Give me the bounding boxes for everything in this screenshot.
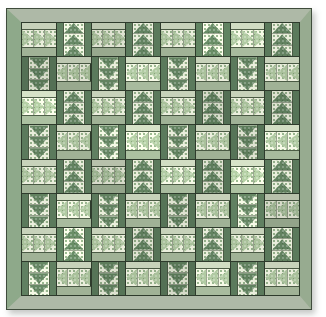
block-bottom-strip	[57, 81, 91, 90]
quilt-block-dark-down	[231, 262, 265, 295]
quilt-block-light-right	[22, 160, 56, 193]
quilt-block-light-left	[57, 125, 91, 158]
goose-triangle-left	[67, 64, 79, 81]
goose-triangle-down	[99, 194, 119, 204]
flying-geese-strip	[161, 235, 195, 252]
block-right-strip	[188, 57, 195, 90]
block-bottom-strip	[265, 218, 299, 227]
goose-triangle-right	[44, 30, 56, 47]
flying-geese-strip	[265, 64, 299, 81]
goose-triangle-right	[102, 30, 114, 47]
block-left-strip	[196, 91, 203, 124]
block-top-strip	[57, 262, 91, 269]
block-top-strip	[265, 125, 299, 132]
goose-triangle-left	[196, 269, 207, 286]
block-right-strip	[257, 57, 264, 90]
block-top-strip	[161, 160, 195, 167]
quilt-block-dark-up	[126, 160, 160, 193]
quilt-block-light-left	[196, 194, 230, 227]
goose-triangle-up	[272, 33, 292, 44]
block-right-strip	[223, 23, 230, 56]
goose-triangle-right	[253, 167, 265, 184]
block-bottom-strip	[92, 47, 126, 56]
goose-triangle-up	[64, 33, 84, 44]
goose-triangle-down	[238, 284, 258, 295]
goose-triangle-up	[133, 160, 153, 170]
goose-triangle-down	[99, 136, 119, 147]
goose-triangle-up	[272, 160, 292, 170]
quilt-block-dark-down	[161, 194, 195, 227]
flying-geese-strip	[22, 98, 56, 115]
block-top-strip	[57, 125, 91, 132]
block-bottom-strip	[126, 81, 160, 90]
goose-triangle-right	[102, 235, 114, 252]
goose-triangle-left	[276, 201, 288, 218]
block-right-strip	[49, 57, 56, 90]
goose-triangle-right	[33, 30, 45, 47]
goose-triangle-up	[203, 238, 223, 249]
flying-geese-strip	[196, 132, 230, 149]
quilt-block-light-right	[22, 228, 56, 261]
block-left-strip	[22, 194, 29, 227]
goose-triangle-up	[64, 91, 84, 101]
quilt-block-dark-up	[265, 160, 299, 193]
goose-triangle-up	[133, 181, 153, 192]
quilt-block-dark-up	[265, 23, 299, 56]
goose-triangle-up	[203, 33, 223, 44]
block-top-strip	[57, 194, 91, 201]
quilt-block-light-right	[231, 91, 265, 124]
block-left-strip	[92, 125, 99, 158]
goose-triangle-left	[126, 132, 137, 149]
block-right-strip	[153, 91, 160, 124]
quilt-block-dark-up	[57, 160, 91, 193]
block-right-strip	[188, 262, 195, 295]
goose-triangle-down	[29, 215, 49, 226]
goose-triangle-right	[33, 98, 45, 115]
goose-triangle-down	[168, 262, 188, 272]
block-bottom-strip	[265, 81, 299, 90]
goose-triangle-left	[137, 64, 149, 81]
goose-triangle-right	[253, 30, 265, 47]
block-right-strip	[49, 262, 56, 295]
block-top-strip	[22, 160, 56, 167]
goose-triangle-up	[133, 250, 153, 261]
block-bottom-strip	[265, 286, 299, 295]
flying-geese-strip	[272, 91, 292, 124]
goose-triangle-down	[168, 284, 188, 295]
flying-geese-strip	[64, 228, 84, 261]
block-right-strip	[292, 228, 299, 261]
block-bottom-strip	[161, 184, 195, 193]
goose-triangle-left	[67, 132, 79, 149]
goose-triangle-down	[29, 68, 49, 79]
goose-triangle-left	[148, 64, 160, 81]
block-left-strip	[231, 262, 238, 295]
goose-triangle-left	[137, 132, 149, 149]
goose-triangle-down	[238, 79, 258, 90]
goose-triangle-left	[79, 201, 91, 218]
block-right-strip	[153, 228, 160, 261]
goose-triangle-left	[287, 269, 299, 286]
goose-triangle-left	[137, 269, 149, 286]
quilt-block-light-right	[92, 23, 126, 56]
block-left-strip	[22, 125, 29, 158]
goose-triangle-down	[99, 57, 119, 67]
block-left-strip	[57, 228, 64, 261]
goose-triangle-left	[206, 64, 218, 81]
flying-geese-strip	[203, 91, 223, 124]
goose-triangle-down	[29, 272, 49, 283]
block-top-strip	[126, 57, 160, 64]
goose-triangle-left	[57, 132, 68, 149]
block-bottom-strip	[265, 150, 299, 159]
flying-geese-strip	[196, 64, 230, 81]
goose-triangle-down	[238, 194, 258, 204]
goose-triangle-down	[238, 125, 258, 135]
goose-triangle-up	[203, 228, 223, 238]
block-left-strip	[265, 160, 272, 193]
goose-triangle-left	[218, 201, 230, 218]
quilt-block-light-right	[231, 160, 265, 193]
goose-triangle-left	[148, 132, 160, 149]
block-bottom-strip	[22, 184, 56, 193]
goose-triangle-up	[64, 238, 84, 249]
quilt-block-light-right	[92, 228, 126, 261]
flying-geese-strip	[133, 228, 153, 261]
